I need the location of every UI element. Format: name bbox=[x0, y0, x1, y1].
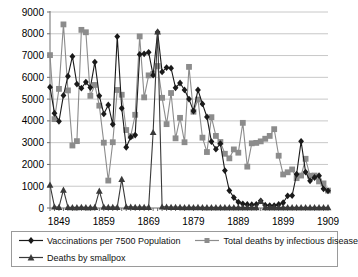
legend-label-vaccinations: Vaccinations per 7500 Population bbox=[47, 236, 180, 246]
svg-text:1000: 1000 bbox=[22, 181, 45, 192]
svg-text:5000: 5000 bbox=[22, 94, 45, 105]
legend-row-1: Vaccinations per 7500 Population Total d… bbox=[12, 232, 337, 249]
svg-text:9000: 9000 bbox=[22, 7, 45, 18]
svg-text:7000: 7000 bbox=[22, 50, 45, 61]
triangle-line-key-icon bbox=[18, 252, 44, 263]
x-axis-tick-labels: 1849185918691879188918991909 bbox=[48, 216, 340, 227]
svg-text:2000: 2000 bbox=[22, 159, 45, 170]
svg-text:6000: 6000 bbox=[22, 72, 45, 83]
line-chart-svg: 0100020003000400050006000700080009000 18… bbox=[0, 0, 353, 228]
svg-text:1869: 1869 bbox=[138, 216, 161, 227]
svg-text:1899: 1899 bbox=[272, 216, 295, 227]
svg-text:1889: 1889 bbox=[227, 216, 250, 227]
legend-entry-smallpox: Deaths by smallpox bbox=[18, 252, 126, 263]
legend-label-total-deaths: Total deaths by infectious disease bbox=[223, 236, 358, 246]
legend-label-smallpox: Deaths by smallpox bbox=[47, 253, 126, 263]
svg-text:1859: 1859 bbox=[93, 216, 116, 227]
y-axis-tick-labels: 0100020003000400050006000700080009000 bbox=[22, 7, 45, 214]
svg-text:1879: 1879 bbox=[182, 216, 205, 227]
svg-text:1849: 1849 bbox=[48, 216, 71, 227]
legend-entry-vaccinations: Vaccinations per 7500 Population bbox=[18, 235, 180, 246]
svg-text:4000: 4000 bbox=[22, 115, 45, 126]
square-line-key-icon bbox=[194, 235, 220, 246]
svg-text:8000: 8000 bbox=[22, 28, 45, 39]
plot-area: 0100020003000400050006000700080009000 18… bbox=[0, 0, 353, 228]
series-total-deaths-by-infectious-disease bbox=[47, 22, 331, 194]
data-series-layer bbox=[47, 22, 332, 211]
legend-entry-total-deaths: Total deaths by infectious disease bbox=[194, 235, 358, 246]
diamond-line-key-icon bbox=[18, 235, 44, 246]
legend-row-2: Deaths by smallpox bbox=[12, 249, 337, 266]
svg-text:3000: 3000 bbox=[22, 137, 45, 148]
svg-text:0: 0 bbox=[38, 203, 44, 214]
chart-legend: Vaccinations per 7500 Population Total d… bbox=[11, 231, 338, 267]
svg-text:1909: 1909 bbox=[317, 216, 340, 227]
